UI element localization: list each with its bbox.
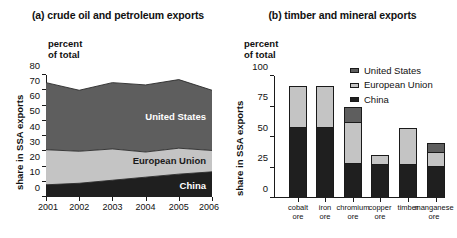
panel-b-unit-label: percent of total: [244, 38, 278, 60]
panel-b-unit-line2: of total: [244, 49, 278, 60]
panel-b-ytick-100: [270, 75, 274, 76]
bar-cobalt-ore[interactable]: [289, 86, 307, 198]
panel-b-unit-line1: percent: [244, 38, 278, 49]
bar-label-cobalt-ore-line2: ore: [288, 213, 308, 222]
bar-timber-segment-china: [399, 164, 417, 198]
bar-chromium-ore[interactable]: [344, 107, 362, 198]
bar-label-manganese-ore: manganese ore: [414, 204, 453, 221]
bar-iron-ore-segment-china: [316, 127, 334, 198]
bar-iron-ore[interactable]: [316, 86, 334, 198]
panel-a-xtick-2004: [146, 197, 147, 201]
bar-manganese-ore-segment-china: [427, 166, 445, 198]
legend-label-united-states: United States: [364, 66, 421, 76]
panel-b-ytick-25: [270, 167, 274, 168]
panel-a-label-european-union: European Union: [133, 155, 206, 166]
panel-a-plot-area: 0 10 20 30 40 50 60 70 80 2001 2002 2003: [46, 75, 212, 197]
bar-copper-ore-segment-european-union: [371, 155, 389, 165]
panel-b-ytick-75: [270, 106, 274, 107]
panel-a-ytick-label-30: 30: [29, 137, 40, 147]
panel-a-crude-oil: (a) crude oil and petroleum exports perc…: [0, 0, 228, 238]
panel-a-xtick-2006: [212, 197, 213, 201]
panel-b-title: (b) timber and mineral exports: [228, 9, 457, 21]
panel-b-ytick-0: [270, 197, 274, 198]
bar-label-iron-ore-line2: ore: [319, 213, 332, 222]
panel-a-ytick-label-80: 80: [29, 61, 40, 71]
panel-a-xtick-label-2004: 2004: [136, 202, 156, 212]
bar-manganese-ore-segment-united-states: [427, 143, 445, 152]
panel-b-timber-minerals: (b) timber and mineral exports percent o…: [228, 0, 457, 238]
figure-container: (a) crude oil and petroleum exports perc…: [0, 0, 457, 238]
panel-a-title: (a) crude oil and petroleum exports: [0, 9, 232, 21]
panel-b-xtick-timber: [408, 198, 409, 202]
panel-a-xtick-label-2002: 2002: [69, 202, 89, 212]
panel-b-ytick-label-50: 50: [257, 123, 268, 133]
bar-label-chromium-ore: chromium ore: [337, 204, 370, 221]
panel-a-xtick-2002: [79, 197, 80, 201]
panel-b-plot-area: 0 25 50 75 100 cobalt ore: [274, 76, 442, 198]
panel-a-ytick-label-70: 70: [29, 76, 40, 86]
panel-a-xtick-label-2006: 2006: [199, 202, 219, 212]
panel-a-unit-label: percent of total: [48, 38, 82, 60]
panel-a-unit-line1: percent: [48, 38, 82, 49]
panel-b-ytick-label-0: 0: [263, 184, 268, 194]
bar-cobalt-ore-segment-china: [289, 127, 307, 198]
panel-b-xtick-manganese: [436, 198, 437, 202]
bar-timber[interactable]: [399, 128, 417, 198]
panel-a-xtick-2003: [112, 197, 113, 201]
bar-label-cobalt-ore: cobalt ore: [288, 204, 308, 221]
panel-b-xtick-cobalt: [298, 198, 299, 202]
panel-b-ytick-label-25: 25: [257, 153, 268, 163]
bar-copper-ore-segment-china: [371, 164, 389, 198]
panel-a-ytick-label-0: 0: [35, 183, 40, 193]
panel-b-y-axis: [274, 76, 275, 198]
bar-copper-ore[interactable]: [371, 155, 389, 198]
panel-b-y-axis-label: share in SSA exports: [234, 101, 245, 196]
bar-manganese-ore-segment-european-union: [427, 152, 445, 167]
bar-timber-segment-european-union: [399, 128, 417, 164]
panel-b-ytick-50: [270, 136, 274, 137]
bar-label-iron-ore: iron ore: [319, 204, 332, 221]
bar-iron-ore-segment-european-union: [316, 86, 334, 127]
panel-a-label-united-states: United States: [145, 111, 206, 122]
panel-b-ytick-label-75: 75: [257, 92, 268, 102]
bar-chromium-ore-segment-european-union: [344, 122, 362, 162]
bar-manganese-ore[interactable]: [427, 143, 445, 198]
bar-chromium-ore-segment-china: [344, 163, 362, 198]
bar-label-manganese-ore-line2: ore: [414, 213, 453, 222]
panel-a-ytick-label-40: 40: [29, 122, 40, 132]
panel-a-xtick-2001: [46, 197, 47, 201]
bar-label-copper-ore: copper ore: [369, 204, 392, 221]
panel-b-xtick-chromium: [353, 198, 354, 202]
panel-a-xtick-2005: [179, 197, 180, 201]
panel-a-label-china: China: [180, 180, 206, 191]
bar-cobalt-ore-segment-european-union: [289, 86, 307, 127]
panel-a-ytick-label-20: 20: [29, 152, 40, 162]
panel-a-stacked-area-svg: [46, 75, 212, 197]
panel-b-ytick-label-100: 100: [252, 62, 268, 72]
panel-b-xtick-copper: [380, 198, 381, 202]
bar-chromium-ore-segment-united-states: [344, 107, 362, 122]
panel-a-ytick-label-60: 60: [29, 91, 40, 101]
panel-b-xtick-iron: [325, 198, 326, 202]
panel-a-xtick-label-2003: 2003: [102, 202, 122, 212]
panel-a-y-axis-label: share in SSA exports: [14, 95, 25, 190]
panel-a-ytick-label-50: 50: [29, 107, 40, 117]
panel-a-xtick-label-2005: 2005: [169, 202, 189, 212]
bar-label-copper-ore-line2: ore: [369, 213, 392, 222]
panel-a-xtick-label-2001: 2001: [38, 202, 58, 212]
bar-label-chromium-ore-line2: ore: [337, 213, 370, 222]
panel-a-unit-line2: of total: [48, 49, 82, 60]
panel-a-ytick-label-10: 10: [29, 168, 40, 178]
legend-swatch-united-states-icon: [350, 68, 359, 73]
